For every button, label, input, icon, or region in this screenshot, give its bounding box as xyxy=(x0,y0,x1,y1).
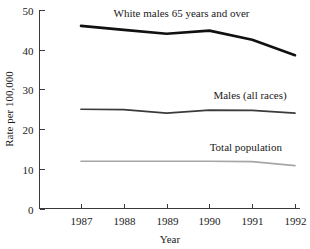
series-label: Total population xyxy=(210,141,283,153)
x-axis-tick-labels: 198719881989199019911992 xyxy=(71,215,307,227)
x-axis-title: Year xyxy=(160,233,181,245)
x-tick-label: 1992 xyxy=(285,215,307,227)
y-axis-ticks xyxy=(40,11,45,210)
y-tick-label: 50 xyxy=(23,5,35,17)
x-tick-label: 1988 xyxy=(114,215,137,227)
x-tick-label: 1990 xyxy=(199,215,222,227)
x-tick-label: 1989 xyxy=(157,215,180,227)
chart-canvas: 01020304050 198719881989199019911992 Whi… xyxy=(0,0,310,249)
y-tick-label: 40 xyxy=(23,45,35,57)
x-tick-label: 1987 xyxy=(71,215,94,227)
y-tick-label: 0 xyxy=(28,204,34,216)
series-label: White males 65 years and over xyxy=(114,7,250,19)
data-series-line xyxy=(81,109,295,113)
line-chart: 01020304050 198719881989199019911992 Whi… xyxy=(0,0,310,249)
x-tick-label: 1991 xyxy=(242,215,264,227)
y-tick-label: 10 xyxy=(23,164,35,176)
data-series-line xyxy=(81,161,295,165)
series-annotation-group: White males 65 years and overMales (all … xyxy=(114,7,287,152)
y-tick-label: 30 xyxy=(23,84,35,96)
x-axis-ticks xyxy=(82,204,296,209)
data-series-line xyxy=(81,26,295,55)
series-label: Males (all races) xyxy=(213,89,287,102)
y-tick-label: 20 xyxy=(23,124,35,136)
y-axis-title: Rate per 100,000 xyxy=(3,71,15,147)
y-axis-tick-labels: 01020304050 xyxy=(23,5,35,216)
